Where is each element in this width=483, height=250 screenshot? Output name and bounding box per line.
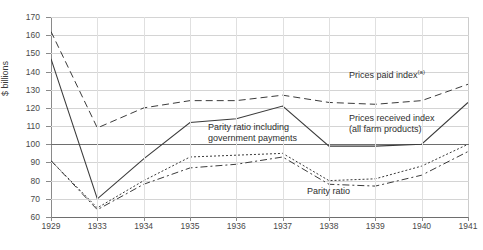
y-tick-label: 70 [18,195,40,203]
x-tick-label: 1941 [448,222,483,231]
series-label-text: Parity ratio [307,186,350,196]
series-label-prices-paid-index: Prices paid index(a) [349,67,425,81]
gridline-1933 [97,17,98,217]
y-tick-label: 150 [18,49,40,57]
gridline-60 [51,217,469,218]
series-label-line2: (all farm products) [349,124,422,134]
y-tick-label: 130 [18,86,40,94]
series-label-line2: government payments [208,133,297,143]
x-tick-label: 1937 [263,222,303,231]
x-tick-label: 1940 [402,222,442,231]
series-label-text: Prices paid index [349,70,418,80]
series-label-line1: Parity ratio including [208,122,289,132]
series-label-parity-ratio-including-government-payments: Parity ratio including government paymen… [208,122,297,143]
x-tick-label: 1936 [216,222,256,231]
y-tick-label: 160 [18,31,40,39]
gridline-1937 [283,17,284,217]
plot-right-border [468,17,469,217]
chart-container: $ billions 17016015014013012011010090807… [0,0,483,250]
y-tick-label: 100 [18,140,40,148]
series-label-line1: Prices received index [349,113,435,123]
series-label-parity-ratio: Parity ratio [307,186,350,197]
x-tick-label: 1938 [309,222,349,231]
x-tick-label: 1934 [124,222,164,231]
y-tick-label: 170 [18,13,40,21]
y-tick-label: 60 [18,213,40,221]
series-line-dotted [51,144,468,208]
gridline-1935 [190,17,191,217]
y-tick-label: 90 [18,158,40,166]
y-tick-label: 80 [18,177,40,185]
x-tick-label: 1929 [31,222,71,231]
series-label-prices-received-index: Prices received index (all farm products… [349,113,435,134]
y-axis-title: $ billions [0,16,10,96]
y-tick-label: 120 [18,104,40,112]
footnote-marker-a: (a) [418,69,425,75]
y-tick-label: 140 [18,68,40,76]
x-tick-label: 1935 [170,222,210,231]
series-line-dash-dot [51,152,468,210]
x-tick-label: 1933 [77,222,117,231]
x-tick-label: 1939 [355,222,395,231]
y-tick-label: 110 [18,122,40,130]
gridline-1936 [236,17,237,217]
gridline-1934 [144,17,145,217]
